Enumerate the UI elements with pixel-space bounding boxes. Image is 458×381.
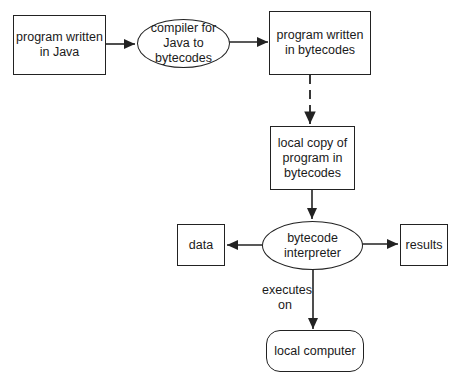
node-bytecode-program: program written in bytecodes — [269, 11, 371, 75]
node-java-source: program written in Java — [13, 15, 106, 75]
node-local-computer: local computer — [266, 330, 364, 372]
node-results: results — [400, 224, 448, 266]
node-compiler: compiler for Java to bytecodes — [137, 19, 230, 68]
node-java-source-label: program written in Java — [16, 30, 103, 60]
edge-label-executes-on: executes on — [262, 283, 308, 313]
node-local-copy-label: local copy of program in bytecodes — [278, 136, 347, 181]
node-interpreter: bytecode interpreter — [262, 221, 363, 270]
node-data-label: data — [189, 238, 213, 253]
node-interpreter-label: bytecode interpreter — [284, 231, 341, 261]
node-results-label: results — [406, 238, 443, 253]
node-compiler-label: compiler for Java to bytecodes — [151, 21, 216, 66]
node-local-computer-label: local computer — [274, 344, 355, 359]
node-local-copy: local copy of program in bytecodes — [270, 126, 355, 190]
node-bytecode-program-label: program written in bytecodes — [277, 28, 364, 58]
node-data: data — [177, 224, 225, 266]
